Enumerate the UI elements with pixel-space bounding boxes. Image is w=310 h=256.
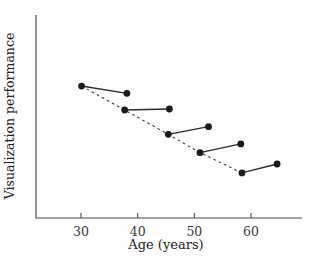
chart-canvas: 30405060 Age (years) Visualization perfo… (0, 0, 310, 256)
cross-sectional-dashed-line (82, 86, 242, 173)
x-tick-label: 30 (73, 224, 89, 239)
x-tick-label: 60 (243, 224, 259, 239)
data-point (237, 141, 244, 148)
cohort-4-longitudinal (200, 144, 241, 153)
cross-sectional-trend (82, 86, 242, 173)
data-points (78, 83, 280, 177)
data-point (239, 170, 246, 177)
data-point (124, 90, 131, 97)
y-axis-label: Visualization performance (2, 33, 17, 201)
data-point (166, 106, 173, 113)
data-point (197, 149, 204, 156)
x-axis-label: Age (years) (127, 237, 203, 252)
data-point (274, 161, 281, 168)
data-point (121, 107, 128, 114)
cohort-2-longitudinal (125, 109, 170, 110)
data-point (205, 123, 212, 130)
data-point (78, 83, 85, 90)
visualization-performance-figure: 30405060 Age (years) Visualization perfo… (0, 0, 310, 256)
longitudinal-segments (82, 86, 278, 173)
cohort-5-longitudinal (242, 164, 277, 173)
axis-lines (36, 15, 302, 218)
data-point (165, 131, 172, 138)
cohort-3-longitudinal (168, 127, 208, 135)
x-axis-ticks: 30405060 (73, 213, 259, 239)
